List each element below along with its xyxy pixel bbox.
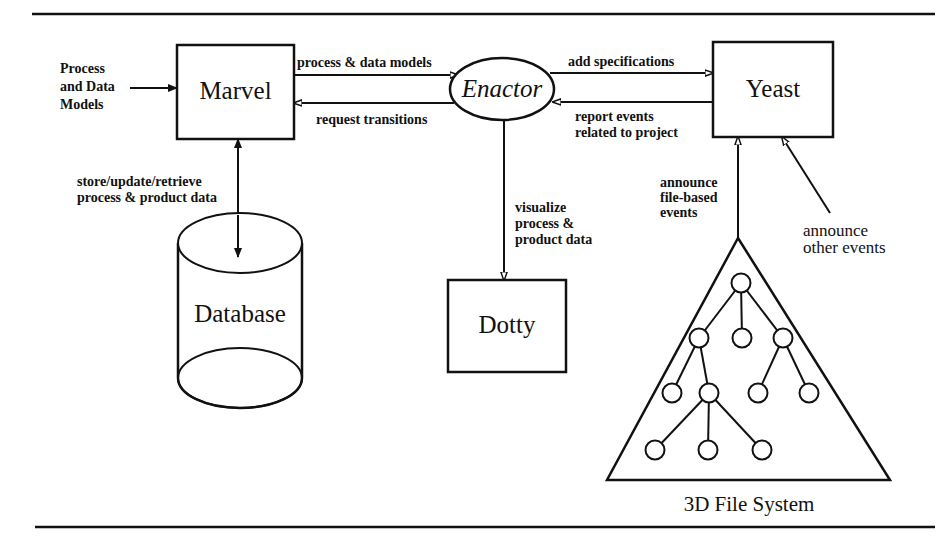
tree-node-circle [646,441,665,460]
marvel-database-label: store/update/retrieve process & product … [77,174,217,205]
tree-node-circle [733,329,752,348]
svg-text:Models: Models [60,97,104,112]
enactor-to-dotty-label: visualize process & product data [515,200,592,247]
marvel-node[interactable]: Marvel [177,45,294,139]
tree-node-circle [732,274,751,293]
enactor-label: Enactor [461,75,543,102]
svg-text:and Data: and Data [60,79,115,94]
svg-text:Process: Process [60,61,105,76]
tree-node-circle [753,441,772,460]
file-system-label: 3D File System [684,492,815,516]
input-label: Process and Data Models [60,61,115,112]
dotty-label: Dotty [479,311,536,338]
database-label: Database [194,300,286,327]
tree-node-circle [699,441,718,460]
other-to-yeast-arrow [782,137,830,213]
marvel-label: Marvel [199,77,271,104]
svg-text:store/update/retrieve: store/update/retrieve [77,174,202,189]
svg-text:related to project: related to project [575,125,678,140]
enactor-to-marvel-label: request transitions [316,112,428,127]
tree-node-circle [774,329,793,348]
tree-node-circle [800,384,819,403]
enactor-to-yeast-label: add specifications [568,54,675,69]
svg-text:announce: announce [660,175,718,190]
svg-text:events: events [660,205,698,220]
svg-text:report events: report events [575,109,654,124]
dotty-node[interactable]: Dotty [448,280,566,372]
marvel-to-enactor-label: process & data models [297,55,432,70]
yeast-to-enactor-label: report events related to project [575,109,678,140]
architecture-diagram: Process and Data Models Marvel process &… [0,0,949,557]
tree-node-circle [663,384,682,403]
svg-text:product data: product data [515,232,592,247]
other-to-yeast-label: announce other events [803,221,886,257]
svg-text:process &: process & [515,216,574,231]
svg-text:file-based: file-based [660,190,718,205]
svg-text:other events: other events [803,238,886,257]
yeast-label: Yeast [746,75,800,102]
svg-text:process & product data: process & product data [77,190,217,205]
enactor-node[interactable]: Enactor [450,58,554,120]
tree-node-circle [690,329,709,348]
svg-text:visualize: visualize [515,200,566,215]
tree-node-circle [700,384,719,403]
database-node[interactable]: Database [178,213,302,408]
tree-node-circle [749,384,768,403]
yeast-node[interactable]: Yeast [713,42,833,137]
file-system-node[interactable] [607,238,890,480]
fs-to-yeast-label: announce file-based events [660,175,718,220]
